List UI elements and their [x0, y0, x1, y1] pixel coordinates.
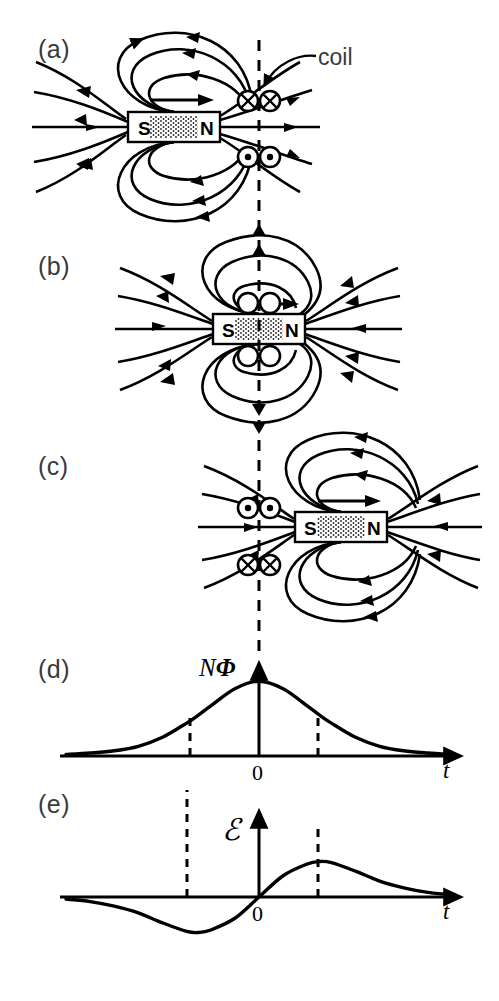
coil-marker-into-page-a-2	[260, 91, 280, 111]
magnet-pole-north: N	[285, 320, 299, 341]
coil-marker-no-current-b-2	[260, 293, 280, 313]
panel-label-b: (b)	[38, 252, 70, 281]
coil-marker-no-current-b-3	[238, 346, 258, 366]
magnet-pole-north: N	[200, 118, 214, 139]
panel-a-diagram: S N	[32, 32, 320, 222]
panel-c-diagram: S N	[198, 432, 482, 622]
coil-marker-into-page-a-1	[238, 91, 258, 111]
induction-figure: S N	[0, 0, 499, 1001]
coil-marker-out-of-page-c-2	[260, 498, 280, 518]
field-lines-right-a	[220, 62, 320, 192]
panel-label-a: (a)	[38, 35, 70, 64]
bar-magnet-c: S N	[295, 512, 387, 542]
panel-label-d: (d)	[38, 655, 70, 684]
coil-marker-no-current-b-1	[238, 293, 258, 313]
bar-magnet-a: S N	[128, 112, 220, 142]
field-lines-left-b	[115, 268, 213, 390]
magnet-pole-north: N	[367, 518, 381, 539]
flux-origin-label: 0	[252, 760, 263, 786]
coil-marker-no-current-b-4	[260, 346, 280, 366]
coil-marker-out-of-page-c-1	[238, 498, 258, 518]
panel-d-chart	[60, 664, 460, 756]
coil-annotation-label: coil	[318, 44, 353, 71]
panel-label-e: (e)	[38, 790, 70, 819]
field-lines-right-c	[387, 466, 482, 588]
magnet-pole-south: S	[138, 118, 151, 139]
flux-label-n: N	[199, 654, 216, 681]
emf-x-axis-label: t	[443, 899, 449, 925]
coil-marker-out-of-page-a-2	[260, 147, 280, 167]
magnet-velocity-arrow-c	[318, 495, 381, 507]
coil-marker-into-page-c-1	[238, 555, 258, 575]
magnet-pole-south: S	[304, 518, 317, 539]
coil-marker-into-page-c-2	[260, 555, 280, 575]
field-lines-left-a	[32, 62, 128, 192]
magnet-pole-south: S	[222, 320, 235, 341]
flux-axis-label: NΦ	[199, 654, 235, 682]
emf-axis-label: ℰ	[222, 812, 240, 847]
magnet-velocity-arrow-a	[150, 94, 214, 106]
coil-marker-out-of-page-a-1	[238, 147, 258, 167]
figure-canvas: S N	[0, 0, 499, 1001]
flux-label-phi: Φ	[216, 654, 236, 681]
flux-x-axis-label: t	[443, 758, 449, 784]
emf-origin-label: 0	[252, 901, 263, 927]
panel-label-c: (c)	[38, 452, 69, 481]
